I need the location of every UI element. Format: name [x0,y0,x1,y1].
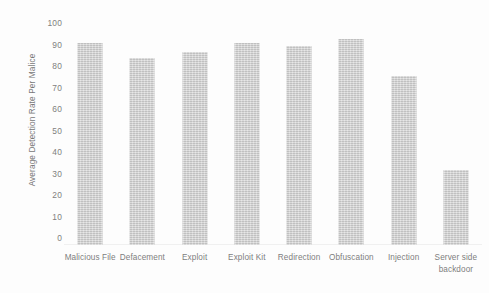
bar-slot [64,30,116,245]
bar-slot [378,30,430,245]
y-axis-tick-label: 60 [38,104,62,114]
bar[interactable] [339,39,364,245]
y-axis-tick-label: 30 [38,169,62,179]
bar-slot [221,30,273,245]
bar-slot [430,30,482,245]
bar[interactable] [78,43,103,245]
bar[interactable] [391,76,416,245]
y-axis-tick-label: 40 [38,147,62,157]
bar[interactable] [234,43,259,245]
x-axis-tick-label: Malicious File [64,252,116,264]
bar-slot [169,30,221,245]
bar-slot [116,30,168,245]
x-axis-tick-label: Injection [378,252,430,264]
y-axis-tick-label: 20 [38,190,62,200]
y-axis-tick-label: 50 [38,126,62,136]
y-axis-tick-label: 10 [38,212,62,222]
y-axis-tick-label: 0 [38,233,62,243]
plot-area [64,30,482,245]
x-axis-tick-label: Redirection [273,252,325,264]
bar-chart-figure: Average Detection Rate Per Malice 010203… [0,0,489,293]
bar[interactable] [130,58,155,245]
bar[interactable] [443,170,468,245]
y-axis-tick-label: 70 [38,83,62,93]
y-axis-tick-label: 90 [38,40,62,50]
bar-slot [325,30,377,245]
bar[interactable] [182,52,207,246]
x-axis-tick-label: Exploit [169,252,221,264]
x-axis-tick-label: Server side backdoor [430,252,482,275]
x-axis-tick-label: Obfuscation [325,252,377,264]
y-axis-tick-labels: 0102030405060708090100 [38,23,62,249]
y-axis-tick-label: 80 [38,61,62,71]
bar[interactable] [287,46,312,245]
bar-slot [273,30,325,245]
x-axis-tick-labels: Malicious FileDefacementExploitExploit K… [64,252,482,292]
x-axis-tick-label: Exploit Kit [221,252,273,264]
y-axis-tick-label: 100 [38,18,62,28]
x-axis-tick-label: Defacement [116,252,168,264]
